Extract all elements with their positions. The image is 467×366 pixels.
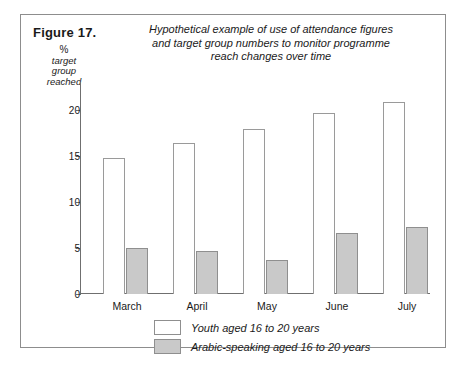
bar-group: March xyxy=(103,96,151,294)
x-axis-label-may: May xyxy=(232,300,302,312)
x-axis-label-april: April xyxy=(162,300,232,312)
bar-group: June xyxy=(313,96,361,294)
bar xyxy=(313,113,335,294)
y-tick-label: 10 xyxy=(69,196,80,207)
bar xyxy=(103,158,125,294)
y-axis-title-line-1: % xyxy=(35,45,93,56)
bar xyxy=(266,260,288,294)
chart-title: Hypothetical example of use of attendanc… xyxy=(121,23,421,64)
figure-label: Figure 17. xyxy=(33,25,96,40)
legend-swatch-arabic xyxy=(154,339,181,354)
chart-title-line-2: and target group numbers to monitor prog… xyxy=(121,37,421,51)
figure-container: Figure 17. Hypothetical example of use o… xyxy=(20,14,446,348)
y-tick-label: 20 xyxy=(69,104,80,115)
legend-item-arabic: Arabic-speaking aged 16 to 20 years xyxy=(154,337,370,356)
bar xyxy=(383,102,405,294)
bar xyxy=(196,251,218,294)
bar-group: April xyxy=(173,96,221,294)
legend-label-arabic: Arabic-speaking aged 16 to 20 years xyxy=(191,341,370,353)
x-axis-label-june: June xyxy=(302,300,372,312)
legend-label-youth: Youth aged 16 to 20 years xyxy=(191,322,319,334)
bar-group: May xyxy=(243,96,291,294)
plot-area: 05101520 MarchAprilMayJuneJuly xyxy=(80,96,430,294)
bar xyxy=(243,129,265,294)
chart-title-line-1: Hypothetical example of use of attendanc… xyxy=(121,23,421,37)
y-tick-label: 15 xyxy=(69,150,80,161)
bar xyxy=(336,233,358,294)
y-axis-title: % target group reached xyxy=(35,45,93,87)
y-tick-label: 5 xyxy=(74,242,80,253)
bar xyxy=(406,227,428,294)
y-axis-title-line-3: group xyxy=(35,66,93,77)
bar-group: July xyxy=(383,96,431,294)
x-axis-label-march: March xyxy=(92,300,162,312)
chart-title-line-3: reach changes over time xyxy=(121,50,421,64)
legend-swatch-youth xyxy=(154,320,181,335)
y-tick-label: 0 xyxy=(74,289,80,300)
x-axis-label-july: July xyxy=(372,300,442,312)
y-axis-title-line-4: reached xyxy=(35,77,93,88)
bar xyxy=(126,248,148,294)
bar xyxy=(173,143,195,294)
y-axis-line xyxy=(80,82,81,294)
legend: Youth aged 16 to 20 yearsArabic-speaking… xyxy=(154,318,370,356)
legend-item-youth: Youth aged 16 to 20 years xyxy=(154,318,370,337)
